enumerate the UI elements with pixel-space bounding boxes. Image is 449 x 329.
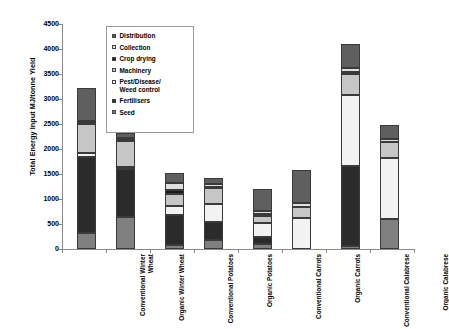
bar-8 bbox=[380, 125, 399, 250]
bar-segment bbox=[341, 166, 360, 246]
bar-segment bbox=[165, 245, 184, 250]
bar-segment bbox=[204, 204, 223, 223]
y-tick-label: 2500 bbox=[43, 120, 59, 127]
bar-segment bbox=[341, 72, 360, 75]
x-axis-label-4: Organic Potatoes bbox=[266, 254, 274, 329]
y-tick-label: 4000 bbox=[43, 45, 59, 52]
bar-segment bbox=[116, 169, 135, 217]
y-tick-label: 2000 bbox=[43, 145, 59, 152]
x-tick-mark bbox=[106, 249, 107, 253]
bar-3 bbox=[165, 173, 184, 250]
bar-segment bbox=[116, 133, 135, 139]
bar-segment bbox=[116, 217, 135, 249]
bar-segment bbox=[77, 157, 96, 233]
bar-segment bbox=[380, 142, 399, 158]
x-axis-label-2: Organic Winter Wheat bbox=[178, 254, 186, 329]
bar-segment bbox=[253, 244, 272, 249]
x-tick-mark bbox=[326, 249, 327, 253]
x-axis-label-5: Conventional Carrots bbox=[315, 254, 323, 329]
bar-segment bbox=[165, 206, 184, 215]
bar-segment bbox=[165, 190, 184, 195]
bar-segment bbox=[253, 211, 272, 215]
bar-segment bbox=[380, 139, 399, 142]
legend-label: Collection bbox=[120, 44, 151, 51]
legend-item: Seed bbox=[112, 109, 193, 116]
y-tick-label: 0 bbox=[55, 245, 59, 252]
bar-segment bbox=[204, 222, 223, 240]
legend-label: Pest/Disease/ Weed control bbox=[120, 78, 161, 93]
bar-segment bbox=[204, 240, 223, 249]
x-axis-label-3: Conventional Potatoes bbox=[227, 254, 235, 329]
x-axis-label-6: Organic Carrots bbox=[354, 254, 362, 329]
legend: DistributionCollectionCrop dryingMachine… bbox=[106, 26, 194, 133]
legend-swatch-icon bbox=[112, 45, 116, 49]
bar-6 bbox=[292, 170, 311, 250]
legend-swatch-icon bbox=[112, 110, 116, 114]
legend-item: Pest/Disease/ Weed control bbox=[112, 78, 193, 93]
bar-segment bbox=[253, 237, 272, 245]
bar-segment bbox=[77, 233, 96, 250]
legend-item: Collection bbox=[112, 44, 193, 51]
bar-segment bbox=[165, 183, 184, 190]
x-tick-mark bbox=[150, 249, 151, 253]
bar-segment bbox=[341, 74, 360, 95]
bar-segment bbox=[204, 178, 223, 185]
bar-segment bbox=[380, 125, 399, 140]
x-tick-mark bbox=[62, 249, 63, 253]
y-tick-label: 4500 bbox=[43, 20, 59, 27]
bar-segment bbox=[165, 194, 184, 206]
x-tick-mark bbox=[282, 249, 283, 253]
bar-1 bbox=[77, 88, 96, 250]
x-tick-mark bbox=[238, 249, 239, 253]
bar-segment bbox=[380, 219, 399, 249]
bar-segment bbox=[116, 141, 135, 167]
x-axis-label-1: Conventional Winter Wheat bbox=[139, 254, 154, 329]
bar-segment bbox=[77, 88, 96, 122]
bar-segment bbox=[204, 188, 223, 204]
legend-swatch-icon bbox=[112, 99, 116, 103]
x-tick-mark bbox=[414, 249, 415, 253]
legend-label: Seed bbox=[120, 109, 135, 116]
y-tick-label: 1000 bbox=[43, 195, 59, 202]
y-tick-label: 3500 bbox=[43, 70, 59, 77]
bar-segment bbox=[77, 124, 96, 153]
legend-swatch-icon bbox=[112, 34, 116, 38]
bar-segment bbox=[253, 214, 272, 216]
legend-label: Crop drying bbox=[120, 55, 156, 62]
bar-segment bbox=[253, 189, 272, 211]
legend-item: Distribution bbox=[112, 32, 193, 39]
bar-segment bbox=[380, 158, 399, 219]
bar-7 bbox=[341, 44, 360, 250]
y-tick-label: 1500 bbox=[43, 170, 59, 177]
bar-segment bbox=[165, 173, 184, 184]
bar-segment bbox=[341, 246, 360, 249]
x-axis-label-8: Organic Calabrese bbox=[442, 254, 449, 329]
bar-segment bbox=[341, 44, 360, 68]
bar-segment bbox=[77, 153, 96, 157]
bar-5 bbox=[253, 189, 272, 250]
legend-label: Fertilisers bbox=[120, 97, 151, 104]
bar-segment bbox=[253, 223, 272, 237]
bar-segment bbox=[204, 184, 223, 187]
y-axis-line bbox=[62, 24, 63, 249]
bar-segment bbox=[292, 170, 311, 203]
legend-swatch-icon bbox=[112, 68, 116, 72]
legend-swatch-icon bbox=[112, 80, 116, 84]
bar-segment bbox=[165, 215, 184, 245]
bar-segment bbox=[116, 167, 135, 170]
legend-label: Distribution bbox=[120, 32, 156, 39]
bar-segment bbox=[341, 95, 360, 166]
x-tick-mark bbox=[370, 249, 371, 253]
bar-segment bbox=[292, 218, 311, 249]
y-tick-label: 3000 bbox=[43, 95, 59, 102]
bar-segment bbox=[292, 207, 311, 218]
bar-segment bbox=[341, 68, 360, 72]
y-axis-title: Total Energy Input MJ/tonne Yield bbox=[28, 27, 37, 207]
legend-item: Fertilisers bbox=[112, 97, 193, 104]
x-tick-mark bbox=[194, 249, 195, 253]
legend-label: Machinery bbox=[120, 67, 152, 74]
legend-item: Crop drying bbox=[112, 55, 193, 62]
legend-item: Machinery bbox=[112, 67, 193, 74]
y-tick-label: 500 bbox=[47, 220, 59, 227]
